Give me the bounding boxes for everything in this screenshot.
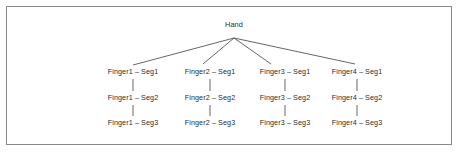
hand-hierarchy-diagram: Hand Finger1 – Seg1Finger1 – Seg2Finger1… bbox=[0, 0, 465, 154]
tree-node-finger1-seg2: Finger1 – Seg2 bbox=[108, 94, 159, 101]
tree-node-finger2-seg2: Finger2 – Seg2 bbox=[185, 94, 236, 101]
tree-node-finger1-seg1: Finger1 – Seg1 bbox=[108, 68, 159, 75]
tree-node-finger2-seg1: Finger2 – Seg1 bbox=[185, 68, 236, 75]
tree-node-finger4-seg1: Finger4 – Seg1 bbox=[332, 68, 383, 75]
tree-node-hand: Hand bbox=[225, 21, 243, 28]
tree-node-finger4-seg3: Finger4 – Seg3 bbox=[332, 119, 383, 126]
tree-node-finger4-seg2: Finger4 – Seg2 bbox=[332, 94, 383, 101]
tree-node-finger1-seg3: Finger1 – Seg3 bbox=[108, 119, 159, 126]
tree-node-finger3-seg3: Finger3 – Seg3 bbox=[260, 119, 311, 126]
tree-node-finger2-seg3: Finger2 – Seg3 bbox=[185, 119, 236, 126]
tree-node-finger3-seg2: Finger3 – Seg2 bbox=[260, 94, 311, 101]
tree-node-finger3-seg1: Finger3 – Seg1 bbox=[260, 68, 311, 75]
